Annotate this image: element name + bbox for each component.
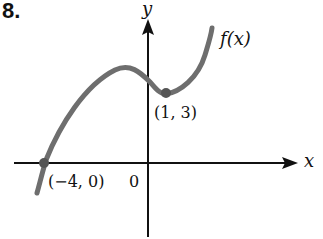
graph-figure: 8. y x f(x) (1, 3) (−4, 0) 0	[0, 0, 323, 239]
point-min-label: (1, 3)	[154, 105, 197, 121]
point-root	[39, 158, 49, 168]
point-local-min	[161, 88, 171, 98]
origin-label: 0	[129, 174, 139, 190]
x-axis-label: x	[304, 152, 314, 170]
point-root-label: (−4, 0)	[48, 174, 104, 190]
y-axis-label: y	[142, 0, 152, 18]
problem-number: 8.	[2, 0, 20, 22]
curve-label: f(x)	[220, 30, 251, 48]
